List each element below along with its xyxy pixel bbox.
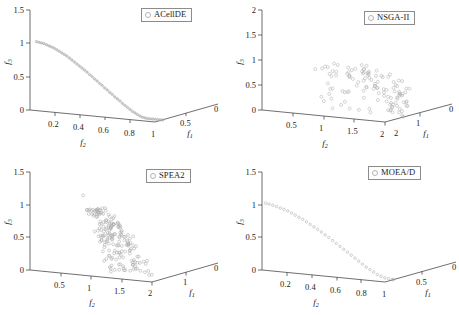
legend-acellde: ACellDE <box>141 8 192 22</box>
data-point <box>128 237 131 240</box>
data-point <box>394 101 397 104</box>
data-point <box>290 212 293 215</box>
data-point <box>135 245 138 248</box>
data-point <box>313 226 316 229</box>
data-point <box>129 269 132 272</box>
panel-moead: 0 0.5 1 1.5 0.2 0.4 0.6 0.8 1 0.5 0 f3 f… <box>230 158 459 315</box>
data-point <box>123 239 126 242</box>
x-tick: 2 <box>380 129 384 139</box>
data-point <box>336 64 339 67</box>
z-tick: 0 <box>20 105 24 115</box>
data-point <box>396 104 399 107</box>
data-point <box>355 84 358 87</box>
data-point <box>365 64 368 67</box>
data-point <box>348 107 351 110</box>
data-point <box>118 256 121 259</box>
x-tick: 0.5 <box>54 280 65 290</box>
data-point <box>362 89 365 92</box>
data-point <box>279 207 282 210</box>
z-tick: 1.5 <box>245 30 256 40</box>
legend-label: SPEA2 <box>159 171 185 181</box>
z-axis-label: f3 <box>2 219 13 225</box>
z-axis-label: f3 <box>234 219 245 225</box>
data-point <box>122 265 125 268</box>
data-point <box>339 245 342 248</box>
legend-moead: MOEA/D <box>368 166 421 180</box>
data-point <box>105 258 108 261</box>
data-point <box>343 100 346 103</box>
z-tick: 0 <box>252 265 256 275</box>
data-point <box>393 90 396 93</box>
data-point <box>120 250 123 253</box>
data-point <box>392 80 395 83</box>
z-tick: 1 <box>252 55 256 65</box>
x-tick: 0.6 <box>330 285 341 295</box>
axis-titles-nsga2: f3 f2 f1 <box>234 59 429 149</box>
x-axis-label: f2 <box>80 137 86 148</box>
data-point <box>96 229 99 232</box>
x-axis-label: f2 <box>89 297 95 308</box>
data-point <box>122 256 125 259</box>
axes-nsga2 <box>258 10 452 126</box>
tick-labels-moead: 0 0.5 1 1.5 0.2 0.4 0.6 0.8 1 0.5 0 <box>245 167 456 299</box>
y-tick: 0 <box>449 104 453 114</box>
data-point <box>363 77 366 80</box>
data-point <box>408 87 411 90</box>
legend-label: NSGA-II <box>377 13 409 23</box>
data-point <box>383 94 386 97</box>
data-point <box>294 214 297 217</box>
data-point <box>321 67 324 70</box>
data-point <box>146 259 149 262</box>
y-tick: 1 <box>416 118 420 128</box>
z-tick: 0.5 <box>13 232 24 242</box>
data-point <box>82 194 85 197</box>
z-tick: 1.5 <box>13 5 24 15</box>
z-axis-label: f3 <box>2 59 13 65</box>
data-point <box>118 235 121 238</box>
axes-moead <box>258 172 456 283</box>
data-point <box>305 221 308 224</box>
data-point <box>298 216 301 219</box>
plot-nsga2: 0 0.5 1 1.5 2 0.5 1 1.5 2 2 1 0 f3 f2 f1 <box>230 0 459 157</box>
data-point <box>392 86 395 89</box>
data-point <box>376 80 379 83</box>
tick-labels-acellde: 0 0.5 1 1.5 0.2 0.4 0.6 0.8 1 0.5 0 <box>13 5 218 139</box>
z-tick: 1 <box>252 200 256 210</box>
y-tick: 0 <box>214 104 218 114</box>
data-point <box>142 260 145 263</box>
y-axis-label: f1 <box>187 128 193 139</box>
data-point <box>330 97 333 100</box>
data-point <box>350 69 353 72</box>
data-point <box>365 266 368 269</box>
z-tick: 0.5 <box>13 72 24 82</box>
data-point <box>118 268 121 271</box>
data-point <box>316 228 319 231</box>
data-point <box>382 91 385 94</box>
data-point <box>385 100 388 103</box>
data-point <box>301 218 304 221</box>
data-point <box>384 277 387 280</box>
data-point <box>127 233 130 236</box>
data-point <box>100 229 103 232</box>
data-point <box>376 99 379 102</box>
panel-spea2: 0 0.5 1 1.5 0.5 1 1.5 2 1 0 f3 f2 f1 SPE… <box>0 158 229 315</box>
data-points-nsga2 <box>314 62 411 118</box>
x-tick: 0.6 <box>98 125 109 135</box>
data-point <box>272 204 275 207</box>
data-point <box>368 107 371 110</box>
data-point <box>346 251 349 254</box>
z-tick: 1.5 <box>245 167 256 177</box>
data-point <box>115 258 118 261</box>
x-tick: 1 <box>382 289 386 299</box>
data-point <box>357 81 360 84</box>
y-axis-label: f1 <box>423 128 429 139</box>
data-point <box>400 110 403 113</box>
x-tick: 1.5 <box>114 286 125 296</box>
data-point <box>380 275 383 278</box>
z-tick: 1.5 <box>13 167 24 177</box>
legend-spea2: SPEA2 <box>146 169 191 183</box>
data-point <box>120 245 123 248</box>
data-point <box>354 257 357 260</box>
legend-nsga2: NSGA-II <box>364 11 415 25</box>
legend-label: MOEA/D <box>381 168 415 178</box>
